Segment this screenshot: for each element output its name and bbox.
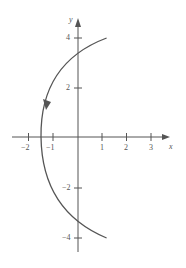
y-tick-label: 2	[66, 84, 70, 92]
parametric-curve-plot	[0, 0, 186, 268]
y-tick-label: 4	[66, 34, 70, 42]
parabola-curve	[41, 38, 107, 238]
x-tick-label: 3	[149, 144, 153, 152]
x-axis-label: x	[169, 143, 173, 151]
x-tick-label: 2	[124, 144, 128, 152]
y-axis-label: y	[69, 16, 73, 24]
x-tick-label: 1	[100, 144, 104, 152]
y-tick-label: −4	[62, 234, 71, 242]
x-axis	[12, 133, 170, 141]
x-tick-label: −1	[46, 144, 55, 152]
x-tick-label: −2	[21, 144, 30, 152]
y-tick-label: −2	[62, 184, 71, 192]
